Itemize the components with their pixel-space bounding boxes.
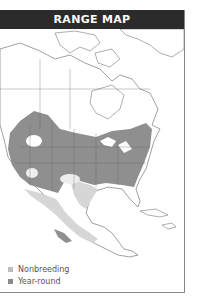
range-map-title: RANGE MAP	[0, 10, 184, 29]
range-gap-rockies	[26, 135, 42, 147]
nonbreeding-swatch-icon	[8, 267, 13, 272]
arctic-islands	[55, 31, 100, 53]
legend-label: Nonbreeding	[18, 265, 69, 274]
year-round-swatch-icon	[8, 279, 13, 284]
legend-label: Year-round	[18, 277, 61, 286]
legend-item-nonbreeding: Nonbreeding	[8, 263, 69, 275]
caribbean-islands	[140, 209, 176, 229]
range-map-card: RANGE MAP	[0, 10, 185, 293]
title-text: RANGE MAP	[54, 13, 131, 26]
legend-item-year-round: Year-round	[8, 275, 69, 287]
greenland	[120, 29, 184, 57]
map-legend: Nonbreeding Year-round	[8, 263, 69, 287]
north-america-map	[0, 29, 184, 259]
